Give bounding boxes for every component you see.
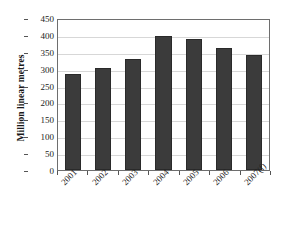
y-axis-tick-mark (24, 19, 28, 20)
bar-2004 (155, 36, 171, 170)
y-axis-tick-label: 0 (28, 167, 54, 176)
y-axis-tick-mark (24, 171, 28, 172)
y-axis-tick-label: 300 (28, 65, 54, 74)
bar-slot (179, 20, 209, 170)
y-axis-tick-mark (24, 137, 28, 138)
y-axis-tick-mark (24, 87, 28, 88)
y-axis-tick-label: 400 (28, 31, 54, 40)
x-axis-tick-mark (270, 171, 271, 175)
bar-slot (239, 20, 269, 170)
y-axis-tick-label: 250 (28, 82, 54, 91)
bar-chart-figure: Million linear metres 050100150200250300… (0, 0, 287, 225)
bar-2001 (65, 74, 81, 170)
y-axis-tick-mark (24, 154, 28, 155)
x-axis-tick-labels: 2001200220032004200520062007(f) (57, 176, 270, 222)
x-axis-tick-mark (179, 171, 180, 175)
bar-slot (148, 20, 178, 170)
bars-container (58, 20, 269, 170)
plot-area (57, 19, 270, 171)
y-axis-title-text: Million linear metres (16, 54, 26, 141)
x-axis-tick-mark (87, 171, 88, 175)
bar-2005 (186, 39, 202, 170)
bar-2007(f) (246, 55, 262, 170)
y-axis-tick-label: 450 (28, 15, 54, 24)
bar-2003 (125, 59, 141, 170)
y-axis-tick-mark (24, 36, 28, 37)
y-axis-tick-label: 350 (28, 48, 54, 57)
bar-slot (209, 20, 239, 170)
y-axis-tick-mark (24, 70, 28, 71)
y-axis-tick-labels: 050100150200250300350400450 (28, 19, 54, 171)
y-axis-tick-label: 150 (28, 116, 54, 125)
y-axis-tick-mark (24, 103, 28, 104)
y-axis-tick-label: 100 (28, 133, 54, 142)
x-axis-tick-mark (118, 171, 119, 175)
x-axis-tick-mark (240, 171, 241, 175)
bar-slot (88, 20, 118, 170)
x-axis-tick-mark (57, 171, 58, 175)
bar-slot (118, 20, 148, 170)
y-axis-tick-mark (24, 120, 28, 121)
x-axis-tick-mark (148, 171, 149, 175)
bar-2002 (95, 68, 111, 170)
bar-2006 (216, 48, 232, 170)
bar-slot (58, 20, 88, 170)
x-axis-tick-mark (209, 171, 210, 175)
y-axis-tick-label: 50 (28, 150, 54, 159)
y-axis-tick-label: 200 (28, 99, 54, 108)
y-axis-tick-mark (24, 53, 28, 54)
